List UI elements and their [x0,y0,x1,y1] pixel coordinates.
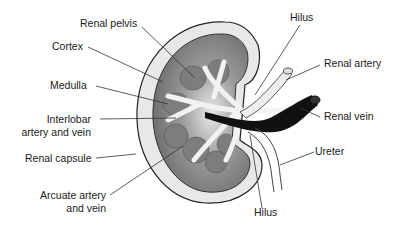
label-hilus-bottom: Hilus [254,206,277,219]
label-renal-vein: Renal vein [324,110,374,123]
label-interlobar-line1: Interlobar [16,113,91,126]
label-medulla: Medulla [50,79,87,92]
label-renal-capsule: Renal capsule [25,152,92,165]
label-interlobar-line2: artery and vein [16,126,91,139]
label-ureter: Ureter [315,145,344,158]
label-renal-artery: Renal artery [324,57,381,70]
label-arcuate-line2: and vein [30,202,106,215]
label-renal-pelvis: Renal pelvis [80,17,137,30]
label-cortex: Cortex [52,40,83,53]
label-hilus-top: Hilus [290,11,313,24]
label-arcuate: Arcuate artery and vein [30,189,106,215]
label-interlobar: Interlobar artery and vein [16,113,91,139]
label-arcuate-line1: Arcuate artery [30,189,106,202]
